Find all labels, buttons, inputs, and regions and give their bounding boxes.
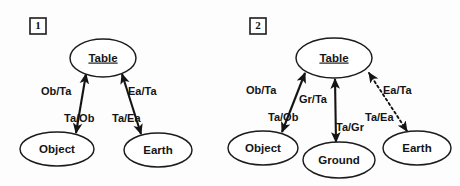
node-object-1-label: Object (39, 143, 75, 155)
edge-label-gr-ta-2: Gr/Ta (299, 93, 328, 105)
panel-2: 2 Table Object Ground (228, 18, 451, 178)
panel-2-number-label: 2 (255, 19, 261, 31)
edge-label-ob-ta-2: Ob/Ta (246, 84, 277, 96)
diagram-canvas: 1 Table Object Earth (0, 0, 460, 186)
panel-2-edge-labels: Ob/Ta Ta/Ob Gr/Ta Ta/Gr Ea/Ta Ta/Ea (246, 84, 412, 133)
edge-label-ob-ta-1: Ob/Ta (41, 85, 72, 97)
edge-label-ta-ea-2: Ta/Ea (365, 111, 394, 123)
node-earth-2: Earth (383, 131, 451, 165)
node-table-1-label: Table (88, 52, 117, 64)
node-object-2: Object (228, 131, 298, 165)
node-table-1: Table (70, 39, 136, 77)
panel-2-nodes: Table Object Ground Earth (228, 38, 451, 178)
panel-1: 1 Table Object Earth (20, 18, 192, 167)
edge-label-ta-gr-2: Ta/Gr (336, 121, 365, 133)
edge-earth-table-1 (122, 74, 141, 134)
node-table-2: Table (296, 38, 372, 78)
node-ground-2-label: Ground (318, 154, 360, 166)
node-earth-2-label: Earth (402, 142, 431, 154)
panel-1-edge-labels: Ob/Ta Ta/Ob Ea/Ta Ta/Ea (41, 85, 157, 124)
node-earth-1: Earth (124, 133, 192, 167)
edge-label-ea-ta-2: Ea/Ta (383, 84, 412, 96)
node-table-2-label: Table (319, 52, 348, 64)
node-ground-2: Ground (303, 142, 375, 178)
panel-1-number-label: 1 (35, 19, 41, 31)
panel-1-edges (76, 74, 141, 134)
edge-object-table-1 (76, 74, 86, 133)
figure-root: 1 Table Object Earth (0, 0, 460, 186)
node-earth-1-label: Earth (143, 144, 172, 156)
panel-2-number-badge: 2 (250, 18, 266, 34)
node-object-1: Object (20, 132, 94, 166)
panel-1-nodes: Table Object Earth (20, 39, 192, 167)
edge-label-ea-ta-1: Ea/Ta (128, 85, 157, 97)
edge-label-ta-ob-1: Ta/Ob (64, 112, 95, 124)
node-object-2-label: Object (245, 142, 281, 154)
edge-label-ta-ea-1: Ta/Ea (112, 112, 141, 124)
edge-label-ta-ob-2: Ta/Ob (268, 111, 299, 123)
panel-1-number-badge: 1 (30, 18, 46, 34)
